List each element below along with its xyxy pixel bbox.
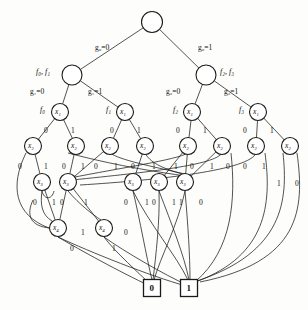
node-x4-0-label: x₄ (53, 224, 59, 232)
edge-value-label-20: 0 (243, 163, 247, 171)
sweep-edge (197, 153, 284, 281)
function-label-2: f₀ (40, 106, 45, 114)
function-label-0: f₀, f₁ (36, 68, 50, 76)
terminal-label-0: 0 (150, 284, 155, 293)
decision-label-1: g₀=1 (198, 44, 212, 52)
edge-layer (17, 28, 300, 286)
loop-edge (42, 191, 54, 198)
node-x1-1-label: x₁ (120, 108, 126, 116)
node-x3-2-label: x₃ (128, 178, 134, 186)
tree-edge (195, 84, 202, 104)
edge-value-label-18: 1 (210, 163, 214, 171)
node-x2-1-label: x₂ (71, 142, 77, 150)
edge-value-label-26: 0 (60, 199, 64, 207)
edge-value-label-23: 0 (295, 180, 299, 188)
edge-value-label-10: 0 (62, 163, 66, 171)
tree-edge (80, 28, 143, 70)
edge-value-label-30: 0 (152, 199, 156, 207)
decision-label-3: g₁=1 (88, 88, 102, 96)
node-x3-3-label: x₃ (154, 178, 160, 186)
edge-value-label-17: 0 (190, 163, 194, 171)
tree-edge (35, 154, 40, 174)
node-x4-1-label: x₄ (99, 224, 105, 232)
node-g-0-circle[interactable] (62, 65, 82, 85)
edge-value-label-21: 1 (262, 163, 266, 171)
node-layer (25, 12, 299, 297)
function-label-4: f₂ (173, 106, 178, 114)
tree-edge (186, 154, 188, 173)
node-x1-2-label: x₁ (187, 108, 193, 116)
edge-value-label-33: 0 (199, 199, 203, 207)
edge-value-label-37: 1 (112, 245, 116, 253)
node-g-0[interactable] (62, 65, 82, 85)
node-root-circle[interactable] (142, 12, 163, 33)
node-x2-4-label: x₂ (183, 142, 189, 150)
edge-value-label-5: 1 (203, 127, 207, 135)
edge-value-label-25: 1 (52, 199, 56, 207)
edge-value-label-36: 0 (70, 245, 74, 253)
node-x2-3-label: x₂ (140, 142, 146, 150)
edge-value-label-15: 1 (152, 163, 156, 171)
edge-value-label-19: 0 (226, 163, 230, 171)
node-x2-5-label: x₂ (217, 142, 223, 150)
edge-value-label-4: 0 (176, 127, 180, 135)
tree-edge (264, 118, 284, 140)
edge-value-label-29: 1 (145, 199, 149, 207)
node-x3-0-label: x₃ (37, 178, 43, 186)
terminal-label-1: 1 (187, 284, 192, 293)
sweep-edge (133, 191, 152, 280)
edge-value-label-2: 0 (110, 127, 114, 135)
edge-value-label-16: 1 (174, 163, 178, 171)
tree-edge (63, 85, 69, 104)
node-g-1[interactable] (196, 65, 216, 85)
edge-value-label-0: 0 (44, 127, 48, 135)
edge-value-label-9: 1 (44, 163, 48, 171)
decision-label-0: g₀=0 (95, 44, 109, 52)
node-x1-0-label: x₁ (55, 108, 61, 116)
edge-value-label-35: 0 (124, 229, 128, 237)
edge-value-label-27: 1 (84, 199, 88, 207)
tree-edge (70, 154, 74, 173)
edge-value-label-24: 0 (33, 199, 37, 207)
edge-value-label-22: 1 (277, 180, 281, 188)
edge-value-label-34: 1 (81, 229, 85, 237)
node-g-1-circle[interactable] (196, 65, 216, 85)
tree-edge (256, 120, 257, 137)
tree-edge (198, 118, 217, 139)
decision-label-4: g₂=0 (166, 88, 180, 96)
edge-value-label-11: 1 (81, 163, 85, 171)
function-label-3: f₁ (106, 106, 111, 114)
function-label-5: f₃ (239, 106, 244, 114)
edge-value-label-31: 1 (172, 199, 176, 207)
node-x2-2-label: x₂ (105, 142, 111, 150)
sweep-edge (104, 237, 187, 285)
node-x1-3-label: x₁ (253, 108, 259, 116)
edge-value-label-1: 1 (71, 127, 75, 135)
edge-value-label-12: 0 (94, 163, 98, 171)
node-x3-4-label: x₃ (180, 178, 186, 186)
sweep-edge (58, 237, 186, 286)
edge-value-label-32: 1 (179, 199, 183, 207)
edge-value-label-7: 1 (270, 127, 274, 135)
decision-label-5: g₂=1 (224, 88, 238, 96)
tree-edge (159, 29, 198, 68)
node-x2-0-label: x₂ (28, 142, 34, 150)
decision-label-2: g₁=0 (30, 88, 44, 96)
edge-value-label-6: 0 (243, 127, 247, 135)
bdd-diagram: x₁x₁x₁x₁x₂x₂x₂x₂x₂x₂x₂x₂x₃x₃x₃x₃x₃x₄x₄01… (0, 0, 308, 310)
edge-value-label-8: 0 (18, 163, 22, 171)
node-x2-7-label: x₂ (285, 142, 291, 150)
sweep-edge (68, 153, 186, 176)
edge-value-label-13: 1 (114, 163, 118, 171)
edge-value-label-28: 0 (124, 199, 128, 207)
edge-value-label-3: 1 (137, 127, 141, 135)
tree-edge (113, 120, 121, 138)
node-root[interactable] (142, 12, 163, 33)
tree-edge (189, 120, 191, 137)
bdd-canvas (0, 0, 308, 310)
node-x2-6-label: x₂ (251, 142, 257, 150)
node-x3-1-label: x₃ (63, 178, 69, 186)
edge-value-label-14: 0 (131, 163, 135, 171)
function-label-1: f₂, f₃ (220, 68, 234, 76)
